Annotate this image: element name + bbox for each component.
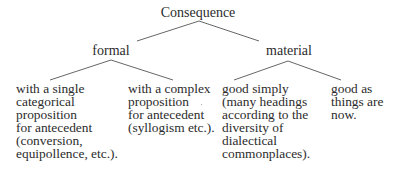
leaf-line: now. (331, 109, 383, 122)
leaf-line: (syllogism etc.). (128, 122, 215, 135)
node-formal: formal (80, 44, 142, 58)
leaf-line: equipollence, etc.). (16, 148, 118, 161)
edge-formal-complex (111, 60, 173, 80)
node-material: material (254, 44, 324, 58)
leaf-complex-proposition: with a complex proposition for anteceden… (128, 83, 215, 135)
leaf-good-simply: good simply (many headings according to … (222, 83, 310, 160)
leaf-line: commonplaces). (222, 148, 310, 161)
root-node-consequence: Consequence (0, 6, 396, 20)
consequence-tree-diagram: Consequence formal material with a singl… (0, 0, 396, 172)
edge-material-now (288, 61, 341, 80)
edge-material-simply (234, 61, 288, 80)
edge-formal-single (50, 60, 111, 80)
edge-root-material (199, 21, 259, 41)
leaf-good-as-things-are: good as things are now. (331, 83, 383, 122)
print-speck (201, 104, 202, 105)
edge-root-formal (137, 21, 199, 41)
leaf-single-categorical: with a single categorical proposition fo… (16, 83, 118, 160)
